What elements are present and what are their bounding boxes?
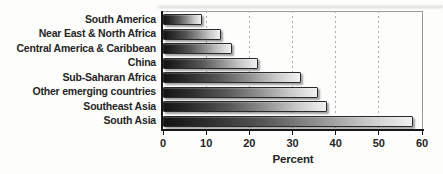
tick-label-60: 60 bbox=[410, 137, 434, 149]
category-label-central-america-caribbean: Central America & Caribbean bbox=[0, 43, 156, 54]
category-label-sub-saharan-africa: Sub-Saharan Africa bbox=[0, 72, 156, 83]
tick-mark-0 bbox=[163, 131, 164, 135]
tick-label-20: 20 bbox=[237, 137, 261, 149]
bar-south-america bbox=[163, 14, 202, 25]
tick-label-10: 10 bbox=[194, 137, 218, 149]
bar-southeast-asia bbox=[163, 101, 327, 112]
bar-china bbox=[163, 58, 258, 69]
tick-mark-60 bbox=[422, 131, 423, 135]
category-label-south-asia: South Asia bbox=[0, 115, 156, 126]
x-axis-title: Percent bbox=[243, 153, 343, 165]
bar-chart: South AmericaNear East & North AfricaCen… bbox=[0, 0, 443, 174]
bar-near-east-north-africa bbox=[163, 29, 221, 40]
category-label-china: China bbox=[0, 57, 156, 68]
tick-mark-20 bbox=[249, 131, 250, 135]
tick-mark-40 bbox=[335, 131, 336, 135]
bar-central-america-caribbean bbox=[163, 43, 232, 54]
tick-mark-50 bbox=[378, 131, 379, 135]
scan-artifact bbox=[158, 6, 443, 8]
category-label-south-america: South America bbox=[0, 14, 156, 25]
gridline-40 bbox=[335, 11, 336, 129]
tick-mark-10 bbox=[206, 131, 207, 135]
plot-frame-right bbox=[422, 11, 423, 129]
category-label-southeast-asia: Southeast Asia bbox=[0, 101, 156, 112]
tick-label-50: 50 bbox=[367, 137, 391, 149]
bar-other-emerging-countries bbox=[163, 87, 318, 98]
category-label-other-emerging-countries: Other emerging countries bbox=[0, 86, 156, 97]
tick-label-40: 40 bbox=[324, 137, 348, 149]
gridline-50 bbox=[378, 11, 379, 129]
bar-sub-saharan-africa bbox=[163, 72, 301, 83]
tick-mark-30 bbox=[292, 131, 293, 135]
y-axis-line bbox=[161, 11, 163, 129]
tick-label-30: 30 bbox=[281, 137, 305, 149]
bar-south-asia bbox=[163, 116, 413, 127]
category-label-near-east-north-africa: Near East & North Africa bbox=[0, 28, 156, 39]
tick-label-0: 0 bbox=[151, 137, 175, 149]
